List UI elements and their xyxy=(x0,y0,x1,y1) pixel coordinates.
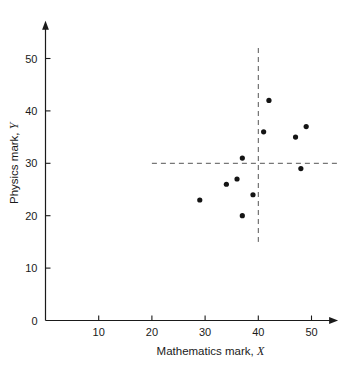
x-tick-label-30: 30 xyxy=(199,326,211,338)
scatter-plot-figure: 102030405010203040500 Mathematics mark, … xyxy=(0,0,358,369)
x-tick-label-50: 50 xyxy=(305,326,317,338)
data-point xyxy=(304,124,309,129)
x-tick-label-20: 20 xyxy=(146,326,158,338)
tick-marks-group xyxy=(46,59,312,321)
data-point xyxy=(250,192,255,197)
data-point xyxy=(234,176,239,181)
data-point xyxy=(224,182,229,187)
y-axis-title: Physics mark, Y xyxy=(7,121,21,204)
y-axis-arrowhead xyxy=(42,21,49,30)
x-axis-arrowhead xyxy=(329,317,338,324)
tick-labels-group: 102030405010203040500 xyxy=(25,53,317,338)
x-axis-title: Mathematics mark, X xyxy=(157,344,265,358)
data-point xyxy=(240,155,245,160)
y-tick-label-20: 20 xyxy=(25,210,37,222)
plot-canvas: 102030405010203040500 Mathematics mark, … xyxy=(0,0,358,369)
reference-lines-group xyxy=(152,48,338,242)
data-point xyxy=(298,166,303,171)
y-tick-label-50: 50 xyxy=(25,53,37,65)
data-point xyxy=(261,129,266,134)
axes-group xyxy=(42,21,338,324)
y-tick-label-10: 10 xyxy=(25,262,37,274)
data-point xyxy=(266,98,271,103)
x-axis-variable: X xyxy=(256,344,265,358)
y-axis-variable: Y xyxy=(7,121,21,129)
data-point xyxy=(197,197,202,202)
y-tick-label-40: 40 xyxy=(25,105,37,117)
x-tick-label-10: 10 xyxy=(93,326,105,338)
data-point xyxy=(240,213,245,218)
x-tick-label-40: 40 xyxy=(252,326,264,338)
data-points-group xyxy=(197,98,309,218)
y-tick-label-30: 30 xyxy=(25,157,37,169)
data-point xyxy=(293,135,298,140)
origin-label: 0 xyxy=(31,315,37,327)
